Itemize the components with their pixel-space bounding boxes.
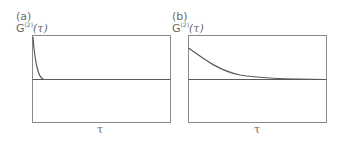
- panel-a-plot: [33, 36, 171, 123]
- panel-b-curve: [189, 48, 327, 80]
- panel-a-curve: [33, 37, 44, 80]
- panel-b-plot: [189, 36, 327, 123]
- chart-canvas: [0, 0, 339, 141]
